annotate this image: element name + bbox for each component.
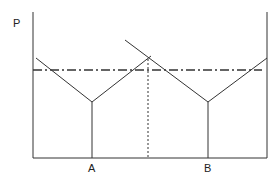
v-curve-b — [125, 40, 267, 102]
point-label-b: B — [204, 162, 211, 174]
point-label-a: A — [88, 162, 96, 174]
axis-label-p: P — [13, 17, 20, 29]
diagram: P A B — [0, 0, 279, 182]
v-curve-a — [36, 56, 151, 102]
